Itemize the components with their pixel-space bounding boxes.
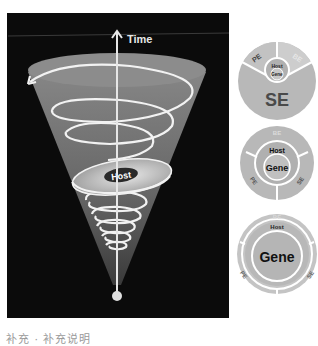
inner-top-label: Host (269, 147, 285, 154)
inner-top-label: Host (270, 224, 283, 230)
circle-diagram-1: Host Gene PE BE SE (236, 40, 318, 122)
inner-bottom-label: Gene (271, 72, 283, 77)
segment-label-se: SE (265, 90, 289, 110)
inner-top-label: Host (271, 63, 282, 69)
inner-bottom-label: Gene (266, 163, 289, 173)
time-spiral-cone: Host Time (0, 0, 232, 320)
figure-caption: 补充 · 补充说明 (6, 330, 92, 346)
segment-label-be: BE (273, 214, 281, 220)
origin-dot (112, 291, 122, 301)
time-label: Time (127, 33, 152, 45)
circle-diagram-3: BE Host Gene PE SE (236, 212, 318, 296)
segment-label-be: BE (273, 130, 281, 136)
inner-bottom-label: Gene (259, 249, 294, 265)
circle-diagram-2: BE Host Gene PE SE (238, 124, 316, 202)
